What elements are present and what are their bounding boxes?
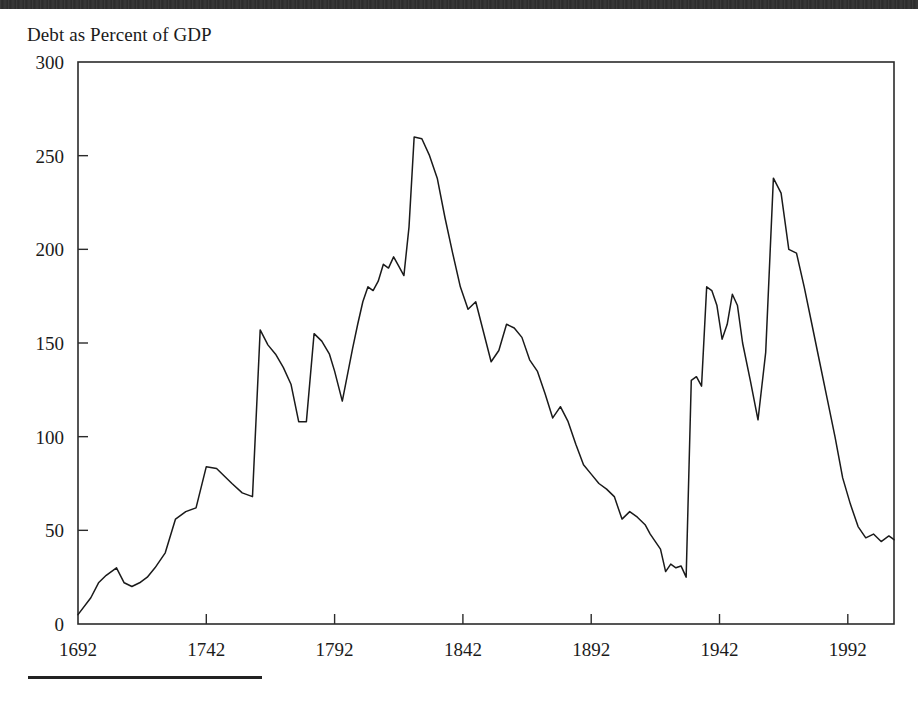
y-axis-ticks <box>78 156 88 531</box>
x-axis-ticks <box>206 614 848 624</box>
x-tick-label: 1942 <box>701 639 739 660</box>
y-tick-label: 200 <box>36 239 65 260</box>
y-axis-tick-labels: 050100150200250300 <box>36 52 65 635</box>
debt-gdp-line-chart: 050100150200250300 169217421792184218921… <box>0 0 918 703</box>
x-axis-tick-labels: 1692174217921842189219421992 <box>59 639 867 660</box>
debt-series-line <box>78 137 894 615</box>
y-tick-label: 250 <box>36 146 65 167</box>
x-tick-label: 1842 <box>444 639 482 660</box>
y-tick-label: 100 <box>36 427 65 448</box>
figure-page: Debt as Percent of GDP 05010015020025030… <box>0 0 918 703</box>
y-tick-label: 50 <box>45 520 64 541</box>
x-tick-label: 1742 <box>187 639 225 660</box>
y-tick-label: 300 <box>36 52 65 73</box>
chart-container: 050100150200250300 169217421792184218921… <box>0 0 918 703</box>
footnote-rule <box>28 676 262 679</box>
x-tick-label: 1792 <box>316 639 354 660</box>
y-tick-label: 150 <box>36 333 65 354</box>
x-tick-label: 1992 <box>829 639 867 660</box>
y-tick-label: 0 <box>55 614 65 635</box>
x-tick-label: 1692 <box>59 639 97 660</box>
x-tick-label: 1892 <box>572 639 610 660</box>
